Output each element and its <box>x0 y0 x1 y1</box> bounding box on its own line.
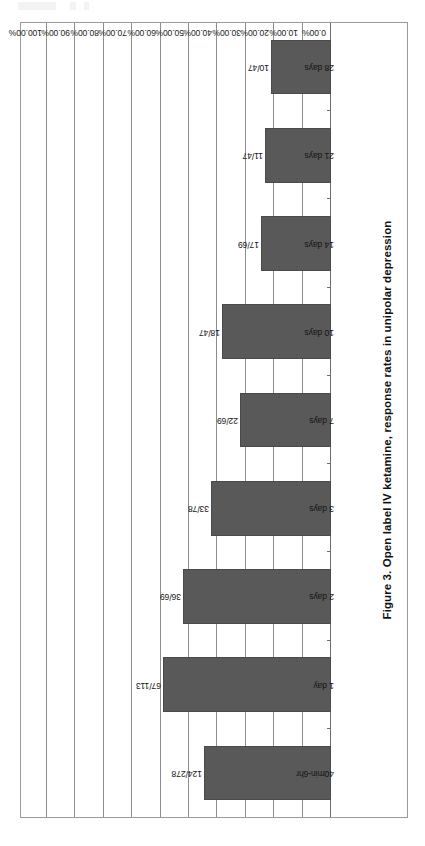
figure-frame: 0.00%10.00%20.00%30.00%40.00%50.00%60.00… <box>20 22 408 818</box>
bar-group: 11/47 <box>47 128 331 183</box>
bar-group: 10/47 <box>47 40 331 95</box>
category-label: 7 days <box>309 416 334 426</box>
bar-value-label: 11/47 <box>242 151 262 161</box>
bar-group: 67/113 <box>47 657 331 712</box>
bar-value-label: 67/113 <box>136 681 161 691</box>
value-tick-label: 70.00% <box>99 28 128 38</box>
category-label: 2 days <box>309 592 334 602</box>
category-label: 1 day <box>313 681 334 691</box>
bar-group: 124/278 <box>47 746 331 801</box>
chart-title: Figure 3. Open label IV ketamine, respon… <box>381 23 393 817</box>
value-tick-label: 90.00% <box>42 28 71 38</box>
category-label: 14 days <box>305 240 334 250</box>
bar-value-label: 22/69 <box>217 416 238 426</box>
chart-inner: 0.00%10.00%20.00%30.00%40.00%50.00%60.00… <box>21 23 407 817</box>
bar-group: 33/78 <box>47 481 331 536</box>
bar-value-label: 36/69 <box>160 592 181 602</box>
category-tick <box>327 640 331 641</box>
category-tick <box>327 551 331 552</box>
bar-value-label: 33/78 <box>188 504 209 514</box>
bar-group: 18/47 <box>47 304 331 359</box>
category-tick <box>327 728 331 729</box>
category-label: 3 days <box>309 504 334 514</box>
value-tick-label: 10.00% <box>269 28 298 38</box>
category-tick <box>327 198 331 199</box>
category-label: 10 days <box>305 328 334 338</box>
value-tick-label: 30.00% <box>212 28 241 38</box>
value-tick-label: 0.00% <box>302 28 326 38</box>
category-tick <box>327 375 331 376</box>
category-tick <box>327 463 331 464</box>
value-tick-label: 100.00% <box>9 28 42 38</box>
bar-group: 17/69 <box>47 216 331 271</box>
rotated-chart-canvas: 0.00%10.00%20.00%30.00%40.00%50.00%60.00… <box>21 23 407 817</box>
bar-group: 36/69 <box>47 569 331 624</box>
bar <box>163 657 331 712</box>
bar-value-label: 124/278 <box>172 769 202 779</box>
value-tick-label: 50.00% <box>155 28 184 38</box>
category-label: 21 days <box>305 151 334 161</box>
plot-area: 0.00%10.00%20.00%30.00%40.00%50.00%60.00… <box>47 23 331 817</box>
bar-group: 22/69 <box>47 393 331 448</box>
category-tick <box>327 287 331 288</box>
value-tick-label: 60.00% <box>127 28 156 38</box>
value-tick-label: 80.00% <box>70 28 99 38</box>
bar-value-label: 18/47 <box>199 328 220 338</box>
value-tick-label: 40.00% <box>184 28 213 38</box>
category-label: 28 days <box>305 63 334 73</box>
category-label: 40min-6hr <box>296 769 334 779</box>
scan-artifact <box>10 2 130 10</box>
value-tick-label: 20.00% <box>241 28 270 38</box>
bar-value-label: 17/69 <box>238 240 259 250</box>
bar-value-label: 10/47 <box>248 63 269 73</box>
category-tick <box>327 110 331 111</box>
